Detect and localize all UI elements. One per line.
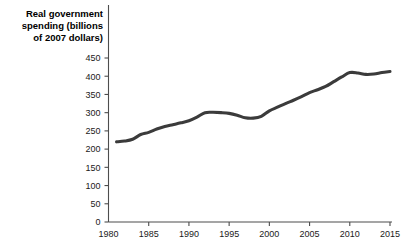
y-tick-label: 300 [85, 108, 100, 118]
x-tick-label: 1990 [179, 229, 199, 239]
y-tick-label: 350 [85, 90, 100, 100]
axis-title-line-3: of 2007 dollars) [33, 32, 103, 43]
y-tick-label: 100 [85, 181, 100, 191]
y-tick-label: 50 [90, 199, 100, 209]
axis-title-line-2: spending (billions [22, 20, 103, 31]
x-tick-label: 2005 [300, 229, 320, 239]
y-tick-label: 450 [85, 53, 100, 63]
axis-title: Real government spending (billions of 20… [22, 8, 104, 43]
x-tick-label: 2000 [259, 229, 279, 239]
y-tick-label: 150 [85, 163, 100, 173]
y-tick-label: 400 [85, 72, 100, 82]
x-tick-label: 1985 [139, 229, 159, 239]
x-tick-label: 2015 [380, 229, 400, 239]
y-tick-label: 250 [85, 126, 100, 136]
y-tick-label: 200 [85, 144, 100, 154]
line-chart: Real government spending (billions of 20… [0, 0, 406, 249]
y-tick-label: 0 [95, 217, 100, 227]
x-tick-label: 1980 [98, 229, 118, 239]
axis-title-line-1: Real government [26, 8, 104, 19]
x-tick-label: 2010 [340, 229, 360, 239]
x-tick-label: 1995 [219, 229, 239, 239]
chart-figure: Real government spending (billions of 20… [0, 0, 406, 249]
